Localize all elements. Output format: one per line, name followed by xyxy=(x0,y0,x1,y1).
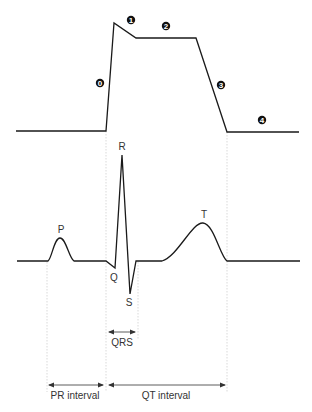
svg-text:0: 0 xyxy=(98,79,103,88)
phase-marker-0: 0 xyxy=(96,79,104,88)
phase-marker-3: 3 xyxy=(217,81,225,90)
action-potential-curve xyxy=(16,23,299,132)
svg-text:2: 2 xyxy=(164,22,169,31)
label-r-wave: R xyxy=(118,141,125,152)
label-t-wave: T xyxy=(201,209,207,220)
label-q-wave: Q xyxy=(110,272,118,283)
qrs-interval-label: QRS xyxy=(111,337,133,348)
svg-text:3: 3 xyxy=(219,81,224,90)
phase-marker-4: 4 xyxy=(258,116,266,125)
svg-text:4: 4 xyxy=(260,116,265,125)
phase-marker-1: 1 xyxy=(127,16,135,25)
phase-marker-2: 2 xyxy=(162,22,170,31)
pr-interval-label: PR interval xyxy=(51,390,100,401)
label-s-wave: S xyxy=(126,297,133,308)
label-p-wave: P xyxy=(58,224,65,235)
diagram-canvas: 0 1 2 3 4 P R Q S T QRS PR interval xyxy=(0,0,312,412)
svg-text:1: 1 xyxy=(129,16,134,25)
qt-interval-label: QT interval xyxy=(142,390,191,401)
